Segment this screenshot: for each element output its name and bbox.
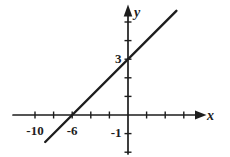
plotted-line xyxy=(45,11,176,142)
x-tick-label: -10 xyxy=(26,123,43,138)
coordinate-plane-figure: -10-6 3-1 x y xyxy=(0,0,230,157)
y-tick-label: 3 xyxy=(115,51,122,66)
y-axis-label: y xyxy=(132,5,141,20)
x-axis-arrow-icon xyxy=(195,111,207,120)
x-axis-label: x xyxy=(206,108,214,123)
y-tick-label: -1 xyxy=(111,125,122,140)
x-tick-label: -6 xyxy=(67,123,78,138)
graph-canvas: -10-6 3-1 x y xyxy=(0,0,230,157)
y-axis-arrow-icon xyxy=(124,5,133,17)
y-axis-tick-labels: 3-1 xyxy=(111,51,122,140)
